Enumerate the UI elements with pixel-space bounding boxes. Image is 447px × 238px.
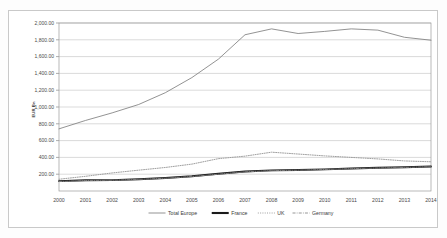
x-tick-label: 2004 — [160, 197, 172, 203]
series-line-france — [59, 166, 431, 181]
y-tick-label: 1,800.00 — [35, 37, 55, 43]
y-tick-label: 1,200.00 — [35, 87, 55, 93]
y-tick-label: 1,000.00 — [35, 104, 55, 110]
x-tick-label: 2006 — [213, 197, 225, 203]
legend-label-uk: UK — [277, 210, 285, 216]
x-tick-label: 2012 — [372, 197, 384, 203]
y-tick-label: 400.00 — [39, 154, 55, 160]
y-tick-label: 600.00 — [39, 137, 55, 143]
y-tick-label: 2,000.00 — [35, 20, 55, 26]
series-line-uk — [59, 152, 431, 179]
series-lines-group — [59, 29, 431, 182]
x-tick-label: 2007 — [239, 197, 251, 203]
series-line-total-europe — [59, 29, 431, 129]
legend-label-total-europe: Total Europe — [168, 210, 197, 216]
chart-plot: 200.00400.00600.00800.001,000.001,200.00… — [9, 11, 439, 229]
x-tick-label: 2014 — [425, 197, 437, 203]
y-tick-label: 1,400.00 — [35, 70, 55, 76]
legend-label-germany: Germany — [312, 210, 334, 216]
x-tick-label: 2001 — [80, 197, 92, 203]
x-tick-labels-group: 2000200120022003200420052006200720082009… — [53, 197, 437, 203]
y-tick-label: 800.00 — [39, 121, 55, 127]
chart-container: EUR Bn 200.00400.00600.00800.001,000.001… — [0, 0, 447, 238]
x-tick-label: 2009 — [292, 197, 304, 203]
x-tick-label: 2002 — [106, 197, 118, 203]
y-tick-labels-group: 200.00400.00600.00800.001,000.001,200.00… — [35, 20, 59, 177]
legend-label-france: France — [231, 210, 247, 216]
x-tick-label: 2013 — [399, 197, 411, 203]
gridlines-group — [59, 23, 431, 174]
x-tick-label: 2008 — [266, 197, 278, 203]
x-tick-label: 2000 — [53, 197, 65, 203]
y-tick-label: 200.00 — [39, 171, 55, 177]
x-tick-label: 2003 — [133, 197, 145, 203]
legend-group: Total EuropeFranceUKGermany — [149, 210, 334, 216]
x-tick-label: 2011 — [346, 197, 357, 203]
x-tick-label: 2010 — [319, 197, 331, 203]
x-tick-label: 2005 — [186, 197, 198, 203]
chart-frame: EUR Bn 200.00400.00600.00800.001,000.001… — [8, 10, 438, 228]
y-tick-label: 1,600.00 — [35, 53, 55, 59]
